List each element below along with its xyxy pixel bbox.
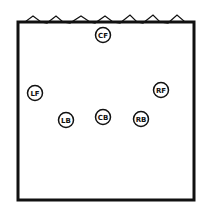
position-label: RF: [156, 87, 166, 95]
position-cb: CB: [96, 110, 111, 125]
court-diagram: CFLFRFLBCBRB: [0, 0, 205, 209]
position-label: LF: [30, 90, 39, 98]
position-rf: RF: [154, 83, 169, 98]
position-label: CF: [98, 32, 108, 40]
position-label: RB: [136, 116, 147, 124]
position-lb: LB: [59, 113, 74, 128]
position-rb: RB: [134, 112, 149, 127]
position-label: CB: [98, 114, 108, 122]
position-lf: LF: [28, 86, 43, 101]
position-label: LB: [61, 117, 71, 125]
position-cf: CF: [96, 28, 111, 43]
